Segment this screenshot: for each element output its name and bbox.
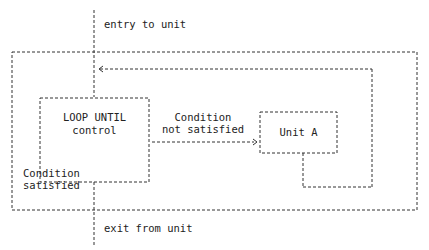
satisfied-label-line1: Condition [23,167,80,179]
unit-a-label: Unit A [260,126,337,138]
exit-label: exit from unit [104,222,193,234]
loop-node-line2: control [40,124,149,136]
not-satisfied-label-line1: Condition [150,111,256,123]
satisfied-label-line2: satisfied [23,179,80,191]
not-satisfied-label-line2: not satisfied [150,123,256,135]
loop-node-line1: LOOP UNTIL [40,111,149,123]
entry-label: entry to unit [104,18,186,30]
